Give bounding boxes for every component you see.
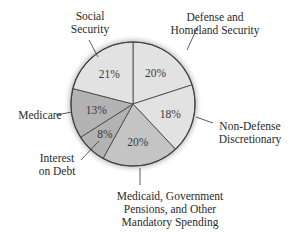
label-line: Homeland Security (170, 24, 259, 37)
label-line: Mandatory Spending (122, 216, 219, 229)
slice-value-label: 18% (160, 108, 182, 120)
label-line: Defense and (186, 11, 243, 23)
slice-category-label: SocialSecurity (71, 10, 110, 36)
slice-category-label: Intereston Debt (39, 152, 77, 177)
pie-chart: 20%18%20%8%13%21% Defense andHomeland Se… (0, 0, 289, 235)
slice-category-label: Medicare (18, 109, 61, 121)
label-line: Interest (40, 152, 75, 164)
slice-category-label: Non-DefenseDiscretionary (219, 120, 282, 146)
slice-value-label: 21% (99, 68, 121, 80)
slice-value-label: 13% (86, 104, 108, 116)
label-line: on Debt (39, 165, 77, 177)
label-line: Discretionary (219, 133, 282, 146)
slice-category-label: Medicaid, GovernmentPensions, and OtherM… (117, 190, 224, 229)
slice-value-label: 8% (97, 128, 113, 140)
label-line: Medicaid, Government (117, 190, 224, 203)
label-line: Medicare (18, 109, 61, 121)
slice-value-label: 20% (145, 67, 167, 79)
slice-category-label: Defense andHomeland Security (170, 11, 259, 37)
label-line: Security (71, 23, 110, 36)
label-line: Social (76, 10, 105, 22)
slice-value-label: 20% (127, 136, 149, 148)
label-line: Non-Defense (219, 120, 280, 132)
label-line: Pensions, and Other (124, 203, 216, 216)
